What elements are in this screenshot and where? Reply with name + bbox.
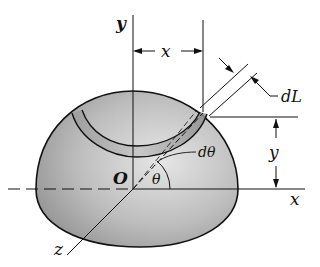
y-axis-label: y [115,13,127,33]
hemisphere-diagram: y x dL dθ y O θ x z [0,0,320,267]
dL-leader [262,88,278,96]
dtheta-label: dθ [198,144,216,160]
x-dim-arrowhead-right [194,48,203,54]
origin-label: O [113,168,128,188]
dL-arrowhead-2 [250,76,259,84]
y-dim-label: y [268,142,279,162]
theta-label: θ [152,171,161,187]
z-axis-label: z [53,239,64,259]
x-dim-label: x [161,41,171,61]
dL-label: dL [281,87,302,106]
dL-arrowhead-1 [225,65,234,73]
x-dim-arrowhead-left [133,48,142,54]
dL-strip-line-1 [200,64,248,108]
dL-strip-line-2 [209,73,257,116]
hemisphere-surface [36,91,238,247]
y-dim-arrowhead-bottom [273,179,279,188]
y-dim-arrowhead-top [273,119,279,128]
x-axis-label: x [290,189,300,209]
